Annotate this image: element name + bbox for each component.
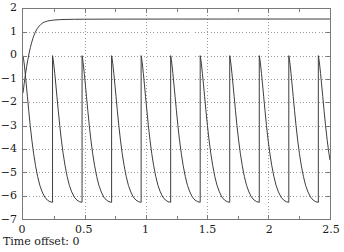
x-tick-label: 2 — [249, 224, 289, 235]
x-tick-label: 1 — [126, 224, 166, 235]
x-tick-label: 0 — [2, 224, 42, 235]
x-tick-label: 0.5 — [64, 224, 104, 235]
time-offset-status: Time offset: 0 — [3, 236, 80, 247]
x-tick-label: 2.5 — [311, 224, 344, 235]
x-tick-label: 1.5 — [187, 224, 227, 235]
